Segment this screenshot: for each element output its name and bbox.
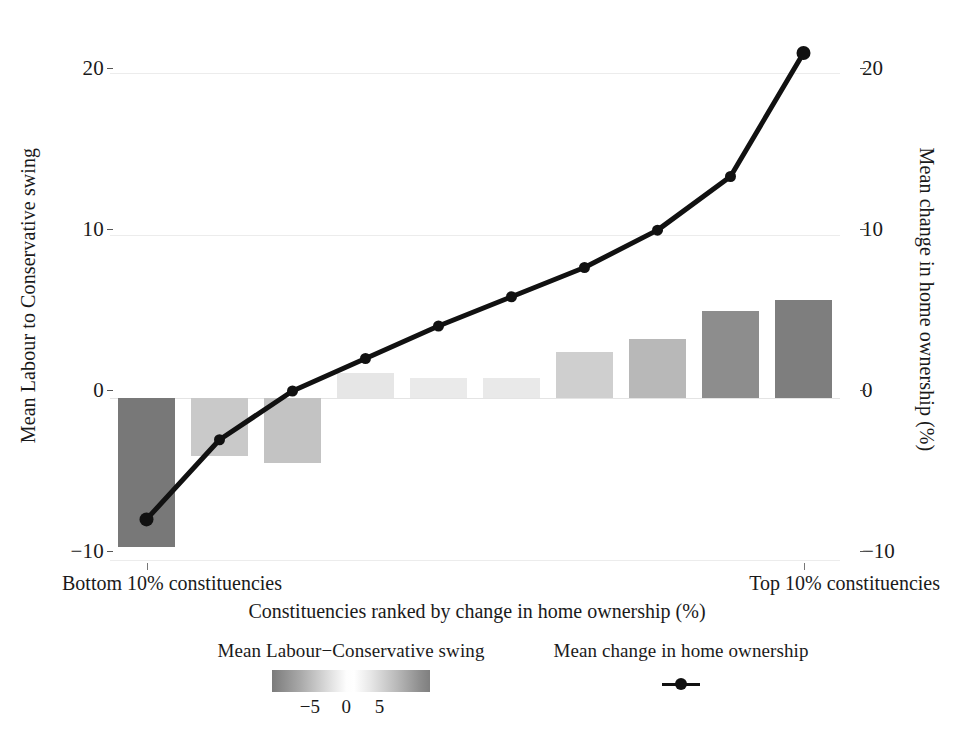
right-axis-tick-mark [860, 229, 866, 230]
bar-3 [264, 398, 322, 463]
bar-5 [410, 378, 468, 398]
legend-colorbar [272, 670, 430, 692]
colorbar-tick-0: 0 [342, 696, 352, 718]
right-axis-tick-mark [860, 68, 866, 69]
left-axis-ticks: 20 10 0 −10 [42, 40, 104, 560]
bar-6 [483, 378, 541, 398]
legend-line-marker-icon [656, 676, 706, 692]
right-axis-tick-10: 10 [862, 217, 883, 242]
line-point-10 [797, 46, 811, 60]
x-axis-tick-mark-left [147, 563, 148, 570]
left-axis-tick-0: 0 [93, 378, 104, 403]
colorbar-tick-neg5: −5 [300, 696, 320, 718]
bar-4 [337, 373, 395, 397]
line-point-8 [652, 225, 663, 236]
legend-colorbar-ticks: −5 0 5 [272, 694, 430, 720]
chart-figure: 20 10 0 −10 20 10 0 −1 [0, 0, 954, 752]
gridline-neg10 [110, 560, 840, 561]
left-axis-tick-20: 20 [83, 56, 104, 81]
colorbar-tick-5: 5 [375, 696, 385, 718]
x-axis-label-top-decile: Top 10% constituencies [749, 572, 940, 595]
x-axis-title: Constituencies ranked by change in home … [0, 600, 954, 623]
left-axis-tick-neg10: −10 [71, 539, 104, 564]
line-point-9 [725, 171, 736, 182]
x-axis-tick-mark-right [804, 563, 805, 570]
line-point-4 [360, 353, 371, 364]
left-axis-tick-0-label: 0 [93, 378, 104, 402]
right-axis-tick-neg10-label: −10 [862, 539, 895, 563]
legend-swing-group: Mean Labour−Conservative swing −5 0 5 [186, 640, 516, 720]
legend-line-group: Mean change in home ownership [516, 640, 846, 692]
right-axis-ticks: 20 10 0 −10 [848, 40, 908, 560]
legend-line-point [675, 678, 687, 690]
x-axis-label-bottom-decile: Bottom 10% constituencies [62, 572, 282, 595]
legend-line-title: Mean change in home ownership [516, 640, 846, 662]
left-axis-tick-neg10-label: −10 [71, 539, 104, 563]
right-axis-title: Mean change in home ownership (%) [915, 140, 938, 460]
plot-inner [110, 40, 840, 560]
line-point-5 [433, 321, 444, 332]
right-axis-tick-0: 0 [862, 378, 873, 403]
left-axis-tick-10-label: 10 [83, 217, 104, 241]
line-point-7 [579, 262, 590, 273]
bar-1 [118, 398, 176, 548]
plot-area [110, 40, 840, 560]
left-axis-tick-20-label: 20 [83, 56, 104, 80]
bar-2 [191, 398, 249, 457]
left-axis-tick-10: 10 [83, 217, 104, 242]
line-point-6 [506, 291, 517, 302]
bar-9 [702, 311, 760, 397]
gridline-20 [110, 73, 840, 74]
legend: Mean Labour−Conservative swing −5 0 5 Me… [0, 640, 954, 752]
left-axis-title: Mean Labour to Conservative swing [17, 146, 40, 446]
right-axis-tick-mark [860, 390, 866, 391]
right-axis-tick-20: 20 [862, 56, 883, 81]
legend-swing-title: Mean Labour−Conservative swing [186, 640, 516, 662]
right-axis-tick-mark [860, 551, 866, 552]
right-axis-tick-neg10: −10 [862, 539, 895, 564]
bar-8 [629, 339, 687, 398]
gridline-10 [110, 235, 840, 236]
line-point-3 [287, 386, 298, 397]
line-series-layer [110, 40, 840, 560]
bar-10 [775, 300, 833, 398]
bar-7 [556, 352, 614, 398]
